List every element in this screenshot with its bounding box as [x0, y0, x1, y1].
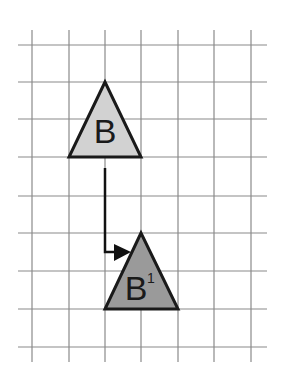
triangle-b-label: B — [94, 112, 117, 150]
arrow-line — [105, 168, 115, 252]
grid — [18, 30, 267, 362]
translation-arrow — [105, 168, 131, 261]
diagram-canvas: B B 1 — [0, 0, 289, 372]
triangle-b-prime-label: B — [125, 269, 148, 307]
translation-diagram: B B 1 — [0, 0, 289, 372]
triangle-b-prime-superscript: 1 — [147, 270, 155, 286]
